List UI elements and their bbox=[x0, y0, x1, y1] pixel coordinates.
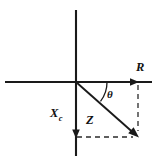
phasor-diagram-canvas: R Xc Z θ bbox=[0, 0, 157, 164]
impedance-phasor-diagram: R Xc Z θ bbox=[0, 0, 157, 164]
reactance-label-base: X bbox=[49, 106, 59, 120]
reactance-label: Xc bbox=[49, 106, 63, 123]
reactance-label-subscript: c bbox=[59, 113, 63, 123]
resistance-arrowhead-icon bbox=[130, 78, 139, 86]
resistance-label: R bbox=[135, 60, 144, 74]
impedance-label: Z bbox=[85, 113, 94, 127]
impedance-vector-line bbox=[76, 82, 133, 132]
angle-label: θ bbox=[107, 88, 113, 100]
